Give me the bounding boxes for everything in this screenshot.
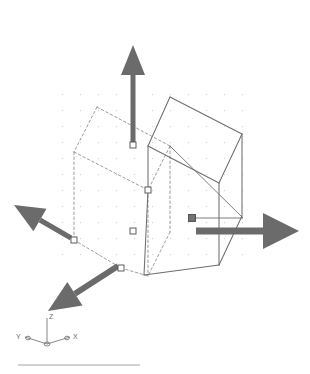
grid-dot [80, 142, 81, 143]
grid-dot [224, 126, 225, 127]
grid-dot [224, 142, 225, 143]
grid-dot [170, 94, 171, 95]
leader-lines-layer [170, 146, 243, 218]
grid-dot [152, 254, 153, 255]
grid-dot [80, 174, 81, 175]
grip-center-vertex[interactable] [145, 187, 151, 193]
grid-dot [116, 206, 117, 207]
grid-dot [242, 238, 243, 239]
box-edge[interactable] [144, 190, 148, 275]
grid-dot [98, 142, 99, 143]
grid-dot [206, 254, 207, 255]
dashed-box-back[interactable] [74, 107, 170, 276]
grid-dot [188, 110, 189, 111]
grid-dot [188, 254, 189, 255]
grid-dot [80, 238, 81, 239]
grid-dot [134, 174, 135, 175]
grid-dot [152, 94, 153, 95]
ucs-label-y: Y [16, 333, 21, 340]
grip-arrow-up-z[interactable] [121, 45, 145, 142]
grip-arrow-downleft-x[interactable] [48, 263, 120, 311]
drawing-canvas[interactable]: XYZ [0, 0, 310, 374]
grid-dot [116, 254, 117, 255]
grid-dot [116, 238, 117, 239]
box-edge[interactable] [74, 152, 148, 190]
grid-dot [98, 254, 99, 255]
grid-dot [116, 158, 117, 159]
leader-corner-diagonal [170, 146, 243, 218]
grid-dot [116, 126, 117, 127]
grip-top-face[interactable] [130, 142, 136, 148]
grid-dot [224, 94, 225, 95]
grid-dot [98, 110, 99, 111]
box-edge[interactable] [219, 134, 242, 183]
grid-dot [134, 190, 135, 191]
grid-dot [188, 190, 189, 191]
grid-dot [116, 110, 117, 111]
grid-dot [62, 142, 63, 143]
grid-dot [80, 222, 81, 223]
grid-dot [152, 174, 153, 175]
grid-dot [242, 94, 243, 95]
grid-dot [170, 254, 171, 255]
box-edge[interactable] [148, 146, 219, 183]
grid-dot [62, 254, 63, 255]
box-edge[interactable] [74, 107, 97, 152]
grid-dot [206, 94, 207, 95]
cad-viewport[interactable]: XYZ [0, 0, 310, 374]
grid-dot [62, 206, 63, 207]
grid-dot [152, 206, 153, 207]
grip-arrows-layer[interactable] [14, 45, 299, 311]
grid-dot [116, 190, 117, 191]
grip-bottom-corner[interactable] [118, 265, 124, 271]
grid-dot [206, 142, 207, 143]
box-edge[interactable] [144, 265, 219, 275]
ucs-label-z: Z [49, 313, 54, 320]
grid-dot [80, 206, 81, 207]
grid-dot [98, 190, 99, 191]
grid-dot [224, 222, 225, 223]
grip-arrow-upleft-y[interactable] [14, 205, 72, 240]
grid-dot [80, 254, 81, 255]
grid-dot [134, 222, 135, 223]
arrow-shaft [39, 218, 73, 240]
arrow-head [48, 282, 82, 311]
solid-box-front[interactable] [144, 97, 242, 275]
grid-dot [152, 238, 153, 239]
grid-dot [134, 158, 135, 159]
grid-dot [152, 110, 153, 111]
grid-dot [170, 174, 171, 175]
grid-dot [134, 206, 135, 207]
arrow-head [263, 213, 299, 249]
grid-dot [206, 158, 207, 159]
grid-dot [224, 238, 225, 239]
grid-dot [206, 126, 207, 127]
grip-right-face-hot[interactable] [189, 215, 196, 222]
grid-dot [98, 174, 99, 175]
grip-left-corner[interactable] [71, 237, 77, 243]
box-edge[interactable] [170, 97, 242, 134]
grid-dot [188, 126, 189, 127]
arrow-shaft [131, 75, 136, 142]
grid-dot [80, 110, 81, 111]
grid-dot [224, 174, 225, 175]
grid-dot [188, 174, 189, 175]
grip-front-face[interactable] [130, 228, 136, 234]
ucs-icon: XYZ [16, 313, 78, 346]
grid-dot [188, 238, 189, 239]
grid-dot [98, 206, 99, 207]
grid-dot [80, 190, 81, 191]
grid-dot [206, 206, 207, 207]
box-edge[interactable] [148, 146, 170, 190]
grid-dot [242, 110, 243, 111]
box-edge[interactable] [148, 232, 170, 276]
box-edge[interactable] [148, 97, 170, 146]
grid-dot [80, 94, 81, 95]
grid-dot [206, 174, 207, 175]
grid-dot [206, 222, 207, 223]
grid-dot [224, 206, 225, 207]
grid-dot [206, 110, 207, 111]
grid-dot [188, 158, 189, 159]
box-edge[interactable] [219, 216, 242, 265]
grid-dot [188, 222, 189, 223]
